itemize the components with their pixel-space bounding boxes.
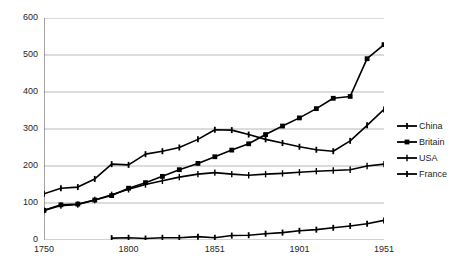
y-tick-label-400: 400 bbox=[23, 87, 38, 96]
data-marker bbox=[331, 96, 336, 101]
legend-marker-usa bbox=[396, 151, 418, 165]
legend-marker-china bbox=[396, 119, 418, 133]
y-tick-label-600: 600 bbox=[23, 13, 38, 22]
line-chart: 0100200300400500600 17501800185119011951… bbox=[0, 0, 467, 265]
data-marker bbox=[212, 154, 217, 159]
data-marker bbox=[196, 161, 201, 166]
legend-item-france[interactable]: France bbox=[396, 166, 466, 182]
data-marker bbox=[405, 140, 410, 145]
y-tick-label-100: 100 bbox=[23, 198, 38, 207]
x-tick-label-1851: 1851 bbox=[205, 244, 225, 254]
plot-area bbox=[44, 18, 384, 240]
legend-label: France bbox=[419, 169, 447, 179]
series-usa bbox=[44, 161, 384, 214]
data-marker bbox=[229, 148, 234, 153]
x-tick-label-1901: 1901 bbox=[289, 244, 309, 254]
data-marker bbox=[263, 132, 268, 137]
data-marker bbox=[382, 42, 384, 47]
legend-marker-france bbox=[396, 167, 418, 181]
series-china bbox=[44, 106, 384, 196]
legend-item-usa[interactable]: USA bbox=[396, 150, 466, 166]
legend-label: USA bbox=[419, 153, 438, 163]
x-axis-labels: 17501800185119011951 bbox=[0, 244, 467, 260]
data-marker bbox=[314, 106, 319, 111]
data-marker bbox=[348, 94, 353, 99]
chart-legend: ChinaBritainUSAFrance bbox=[396, 118, 466, 182]
y-axis-labels: 0100200300400500600 bbox=[0, 0, 38, 265]
legend-item-britain[interactable]: Britain bbox=[396, 134, 466, 150]
data-marker bbox=[280, 124, 285, 129]
y-tick-label-0: 0 bbox=[33, 235, 38, 244]
legend-marker-britain bbox=[396, 135, 418, 149]
y-tick-label-300: 300 bbox=[23, 124, 38, 133]
plot-svg bbox=[44, 18, 384, 240]
legend-item-china[interactable]: China bbox=[396, 118, 466, 134]
data-marker bbox=[246, 141, 251, 146]
y-tick-label-200: 200 bbox=[23, 161, 38, 170]
x-tick-label-1951: 1951 bbox=[374, 244, 394, 254]
data-marker bbox=[297, 116, 302, 121]
x-tick-label-1750: 1750 bbox=[34, 244, 54, 254]
data-marker bbox=[365, 56, 370, 61]
legend-label: China bbox=[419, 121, 443, 131]
data-marker bbox=[177, 167, 182, 172]
y-tick-label-500: 500 bbox=[23, 50, 38, 59]
legend-label: Britain bbox=[419, 137, 445, 147]
series-france bbox=[112, 217, 384, 240]
x-tick-label-1800: 1800 bbox=[119, 244, 139, 254]
